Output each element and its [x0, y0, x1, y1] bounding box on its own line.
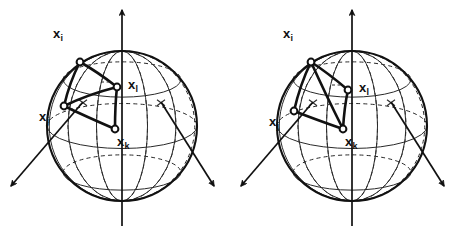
- longitude-front-neg-0: [352, 51, 378, 201]
- label-xj: xj: [39, 110, 49, 123]
- label-xj-base: x: [39, 109, 46, 124]
- longitude-front-0: [327, 51, 353, 201]
- label-xl-base: x: [128, 77, 135, 92]
- longitude-back-0: [122, 51, 148, 201]
- figure-root: xixlxjxkxixlxjxk: [0, 0, 462, 232]
- vertex-xl[interactable]: [114, 84, 121, 91]
- label-xk-base: x: [345, 134, 352, 149]
- edge-xi-xl[interactable]: [80, 62, 117, 87]
- vertex-xk[interactable]: [112, 126, 119, 133]
- label-xl-subscript: l: [367, 87, 370, 97]
- label-xi-base: x: [53, 26, 60, 41]
- label-xl-subscript: l: [136, 84, 139, 94]
- panels-group: [11, 10, 444, 226]
- longitude-back-central: [352, 51, 425, 201]
- label-xk-base: x: [117, 134, 124, 149]
- label-xi-subscript: i: [291, 33, 294, 43]
- edge-xj-xk[interactable]: [64, 106, 115, 129]
- longitude-back-central: [122, 51, 195, 201]
- longitude-back-1: [352, 51, 406, 201]
- longitude-back-1: [122, 51, 176, 201]
- edge-xl-xk[interactable]: [115, 87, 117, 129]
- label-xi-subscript: i: [61, 33, 64, 43]
- longitude-back-0: [352, 51, 378, 201]
- label-xj-subscript: j: [277, 121, 280, 131]
- label-xi-base: x: [283, 26, 290, 41]
- label-xi: xi: [283, 27, 293, 40]
- label-xk-subscript: k: [353, 141, 358, 151]
- label-xi: xi: [53, 27, 63, 40]
- edge-xl-xk[interactable]: [343, 90, 348, 129]
- label-xl: xl: [128, 78, 138, 91]
- label-xk: xk: [345, 135, 357, 148]
- label-xk-subscript: k: [125, 141, 130, 151]
- label-xk: xk: [117, 135, 129, 148]
- longitude-front-neg-0: [122, 51, 148, 201]
- label-xj: xj: [269, 115, 279, 128]
- vertex-xl[interactable]: [345, 87, 352, 94]
- vertex-xj[interactable]: [291, 108, 298, 115]
- label-xl-base: x: [359, 80, 366, 95]
- label-xl: xl: [359, 81, 369, 94]
- longitude-front-neg-1: [352, 51, 406, 201]
- sphere-diagram-canvas: [0, 0, 462, 232]
- label-xj-base: x: [269, 114, 276, 129]
- vertex-xi[interactable]: [308, 59, 315, 66]
- vertex-xi[interactable]: [77, 59, 84, 66]
- vertex-xk[interactable]: [340, 126, 347, 133]
- longitude-front-neg-1: [122, 51, 176, 201]
- label-xj-subscript: j: [47, 116, 50, 126]
- vertex-xj[interactable]: [61, 103, 68, 110]
- longitude-back-neg-0: [327, 51, 353, 201]
